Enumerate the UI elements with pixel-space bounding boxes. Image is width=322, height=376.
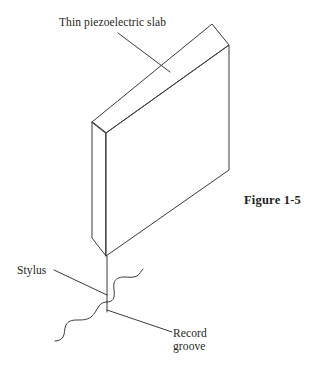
figure-container: Thin piezoelectric slab Stylus Recordgro…: [0, 0, 322, 376]
label-record-groove-line2: groove: [173, 340, 207, 353]
label-record-groove: Recordgroove: [173, 327, 207, 353]
leader-line-stylus: [54, 270, 107, 295]
record-groove-right: [107, 269, 143, 302]
slab-front-face: [106, 45, 229, 256]
record-groove-left: [55, 302, 107, 341]
slab-top-face: [92, 24, 229, 133]
figure-caption: Figure 1-5: [244, 193, 301, 207]
label-thin-piezoelectric-slab: Thin piezoelectric slab: [59, 16, 166, 29]
slab-left-end-face: [92, 122, 106, 256]
leader-line-slab: [118, 33, 170, 72]
leader-line-groove: [107, 310, 172, 332]
label-record-groove-line1: Record: [173, 327, 207, 339]
figure-line-art: [0, 0, 322, 376]
label-stylus: Stylus: [17, 264, 46, 277]
